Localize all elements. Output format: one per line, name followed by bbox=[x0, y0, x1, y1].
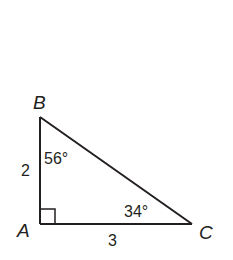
triangle-diagram: B A C 2 3 56° 34° bbox=[0, 0, 233, 260]
vertex-label-c: C bbox=[199, 222, 213, 243]
vertex-label-b: B bbox=[33, 92, 46, 113]
angle-label-b: 56° bbox=[44, 150, 68, 167]
side-label-ab: 2 bbox=[21, 162, 30, 179]
right-angle-marker bbox=[40, 209, 55, 224]
side-bc bbox=[40, 117, 192, 224]
side-label-ac: 3 bbox=[108, 232, 117, 249]
vertex-label-a: A bbox=[16, 220, 30, 241]
angle-label-c: 34° bbox=[124, 203, 148, 220]
